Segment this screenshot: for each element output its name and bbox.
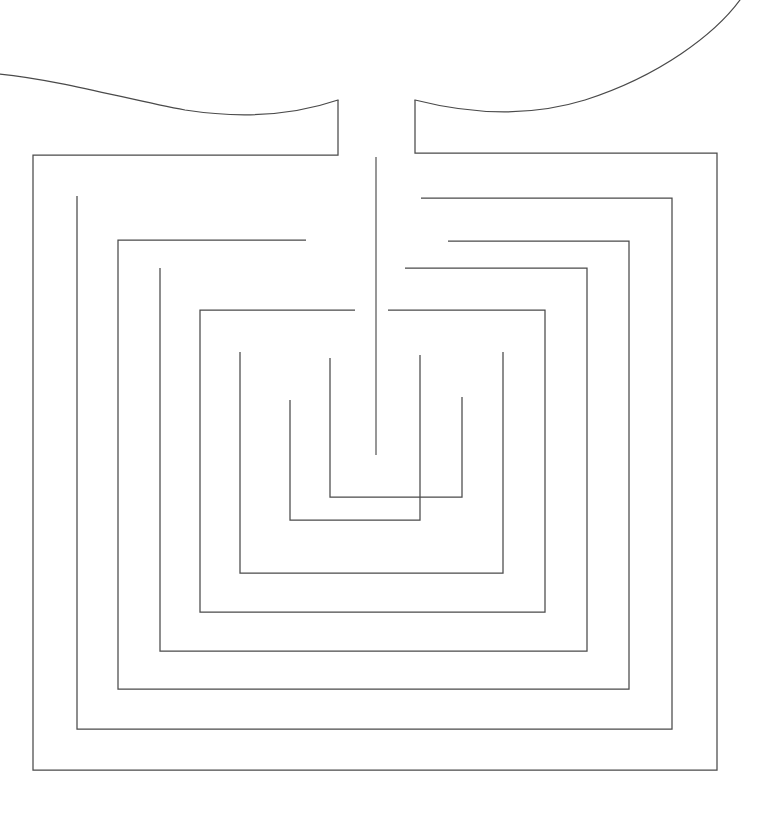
labyrinth-ring-3 — [118, 240, 629, 689]
labyrinth-walls-group — [33, 100, 717, 770]
labyrinth-inner-u-left — [290, 355, 420, 520]
drawing-canvas — [0, 0, 763, 828]
decorative-curve-left-path — [0, 74, 338, 115]
labyrinth-ring-1-outer — [33, 100, 717, 770]
decorative-curve-group — [0, 0, 740, 115]
decorative-curve-right-path — [415, 0, 740, 112]
labyrinth-ring-2 — [77, 196, 672, 729]
labyrinth-ring-4 — [160, 268, 587, 651]
labyrinth-inner-u-right — [330, 358, 462, 497]
labyrinth-svg — [0, 0, 763, 828]
labyrinth-ring-5 — [200, 310, 545, 612]
labyrinth-ring-6 — [240, 352, 503, 573]
